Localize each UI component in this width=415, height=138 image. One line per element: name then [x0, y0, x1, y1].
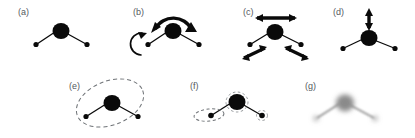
bond-left	[87, 104, 106, 116]
panel-b-molecule	[105, 0, 215, 69]
vertical-arrow-down-head-icon	[365, 23, 373, 31]
central-atom	[229, 94, 246, 110]
molecule-motion-figure: (a) (b) (c)	[0, 0, 415, 138]
bond-left	[344, 39, 363, 48]
left-atom	[247, 42, 252, 47]
horizontal-arrow-left-head-icon	[255, 14, 263, 22]
right-atom	[84, 42, 89, 47]
panel-g-label: (g)	[305, 81, 316, 91]
central-atom	[361, 30, 378, 46]
central-atom	[267, 24, 284, 40]
left-atom	[33, 42, 38, 47]
bond-left	[251, 33, 269, 44]
panel-d-label: (d)	[333, 7, 344, 17]
central-atom	[104, 95, 121, 111]
panel-f-label: (f)	[190, 81, 199, 91]
panel-e-label: (e)	[69, 81, 80, 91]
panel-g: (g)	[295, 69, 415, 138]
panel-c: (c)	[215, 0, 320, 69]
left-atom	[340, 46, 345, 51]
panel-f-molecule	[180, 69, 295, 138]
left-atom	[208, 113, 214, 119]
bond-right	[117, 105, 137, 116]
right-atom	[259, 113, 265, 119]
panel-f: (f)	[180, 69, 295, 138]
panel-a-label: (a)	[18, 7, 29, 17]
panel-b-label: (b)	[133, 7, 144, 17]
horizontal-arrow-right-head-icon	[289, 14, 297, 22]
right-atom	[196, 42, 201, 47]
bond-right	[374, 40, 394, 48]
bond-left	[317, 104, 339, 118]
panel-a-molecule	[0, 0, 105, 69]
right-atom	[298, 42, 303, 47]
left-atom	[83, 114, 88, 119]
bond-left	[37, 32, 55, 44]
central-atom	[336, 95, 354, 112]
panel-e-molecule	[55, 69, 180, 138]
bond-right	[178, 33, 198, 44]
panel-g-molecule	[295, 69, 415, 138]
bond-right	[66, 33, 86, 44]
left-atom-arrowhead-icon	[138, 32, 147, 39]
blurred-atoms	[314, 95, 378, 121]
panel-c-label: (c)	[243, 7, 254, 17]
bond-right	[350, 105, 374, 118]
central-atom	[53, 23, 70, 39]
central-atom	[165, 23, 182, 39]
right-atom	[373, 116, 378, 121]
bond-left	[149, 32, 167, 44]
panel-a: (a)	[0, 0, 105, 69]
left-atom	[314, 116, 319, 121]
panel-c-molecule	[215, 0, 320, 69]
panel-d: (d)	[320, 0, 415, 69]
panel-e: (e)	[55, 69, 180, 138]
left-atom	[145, 42, 150, 47]
bond-right	[242, 104, 261, 115]
right-atom	[392, 46, 397, 51]
vertical-arrow-up-head-icon	[365, 8, 373, 16]
bond-right	[280, 34, 300, 44]
panel-b: (b)	[105, 0, 215, 69]
right-atom	[135, 114, 140, 119]
